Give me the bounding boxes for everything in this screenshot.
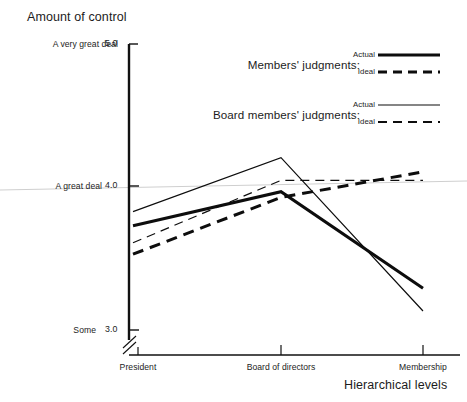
series-layer <box>133 158 423 311</box>
x-tick-label-membership: Membership <box>399 362 447 372</box>
series-line-4 <box>133 180 423 243</box>
legend-group-label-members: Members' judgments: <box>150 58 360 71</box>
chart-figure: Amount of control Hierarchical levels A … <box>0 0 467 402</box>
x-axis-title: Hierarchical levels <box>344 378 447 392</box>
y-axis-title: Amount of control <box>27 10 127 24</box>
y-tick-value-5: 5.0 <box>105 38 117 48</box>
series-line-1 <box>133 192 423 289</box>
y-tick-value-3: 3.0 <box>105 324 117 334</box>
legend-group-label-board-members: Board members' judgments: <box>110 108 360 121</box>
legend-key-label-members-ideal: Ideal <box>330 67 375 76</box>
x-tick-label-president: President <box>120 362 157 372</box>
y-tick-anchor-4: A great deal <box>32 181 102 191</box>
axis-break-mark-lower <box>123 342 136 354</box>
x-tick-label-board-of-directors: Board of directors <box>247 362 316 372</box>
y-tick-anchor-3: Some <box>54 325 96 335</box>
legend-key-label-board-actual: Actual <box>330 100 375 109</box>
legend-key-label-board-ideal: Ideal <box>330 117 375 126</box>
legend-key-label-members-actual: Actual <box>330 50 375 59</box>
y-tick-value-4: 4.0 <box>105 180 117 190</box>
